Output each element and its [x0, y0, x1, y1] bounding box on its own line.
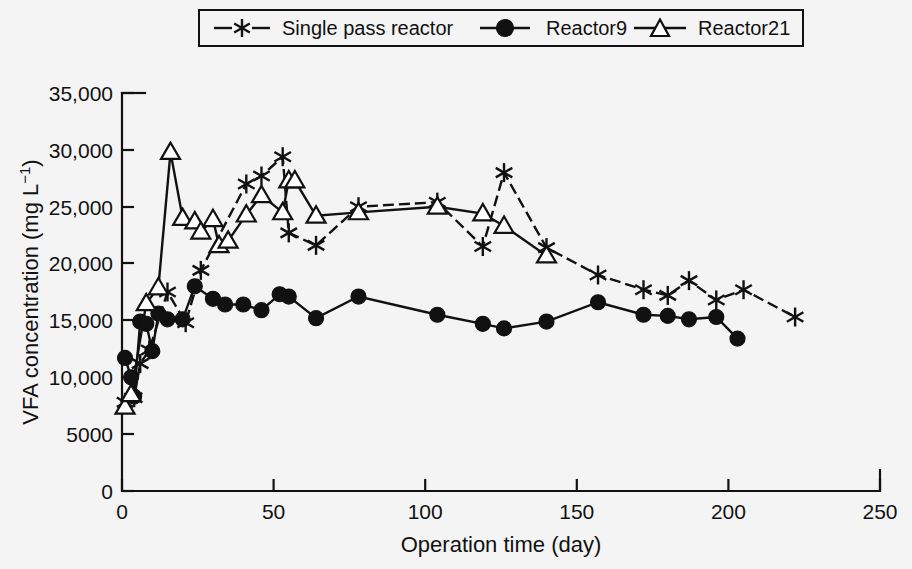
- chart-background: [0, 0, 912, 569]
- data-point-1-19: [475, 316, 490, 331]
- data-point-1-23: [636, 307, 651, 322]
- x-tick-label-250: 250: [862, 500, 897, 523]
- y-tick-label-25000: 25,000: [49, 196, 113, 219]
- x-tick-label-150: 150: [559, 500, 594, 523]
- data-point-1-7: [160, 312, 175, 327]
- y-tick-label-5000: 5000: [66, 423, 113, 446]
- data-point-1-0: [118, 350, 133, 365]
- vfa-concentration-chart: Single pass reactor Reactor9 Reactor21: [0, 0, 912, 569]
- data-point-1-24: [660, 308, 675, 323]
- legend-item-reactor9[interactable]: Reactor9: [480, 17, 627, 39]
- x-tick-label-0: 0: [116, 500, 128, 523]
- figure-container: Single pass reactor Reactor9 Reactor21: [0, 0, 912, 569]
- svg-text:VFA concentration (mg L−1): VFA concentration (mg L−1): [16, 159, 44, 424]
- y-axis-title-exponent: −1: [16, 167, 33, 184]
- y-axis-title-main: VFA concentration (mg L: [18, 184, 43, 425]
- y-tick-label-30000: 30,000: [49, 139, 113, 162]
- legend-label-single-pass-reactor: Single pass reactor: [282, 17, 454, 39]
- y-tick-label-15000: 15,000: [49, 309, 113, 332]
- data-point-1-21: [539, 314, 554, 329]
- data-point-1-15: [281, 289, 296, 304]
- x-axis-title: Operation time (day): [401, 532, 602, 557]
- filled-circle-icon: [497, 20, 514, 37]
- data-point-1-5: [145, 344, 160, 359]
- y-axis-title-close: ): [18, 159, 43, 166]
- y-tick-label-20000: 20,000: [49, 252, 113, 275]
- data-point-1-17: [351, 289, 366, 304]
- data-point-1-13: [254, 303, 269, 318]
- data-point-1-11: [218, 297, 233, 312]
- data-point-1-18: [430, 307, 445, 322]
- x-tick-label-50: 50: [262, 500, 285, 523]
- data-point-1-9: [187, 279, 202, 294]
- data-point-1-12: [236, 297, 251, 312]
- data-point-1-20: [497, 321, 512, 336]
- x-tick-label-200: 200: [711, 500, 746, 523]
- data-point-1-8: [175, 312, 190, 327]
- y-tick-label-35000: 35,000: [49, 82, 113, 105]
- data-point-1-22: [591, 295, 606, 310]
- data-point-1-16: [309, 311, 324, 326]
- y-tick-label-10000: 10,000: [49, 366, 113, 389]
- data-point-1-25: [681, 312, 696, 327]
- data-point-1-26: [709, 310, 724, 325]
- legend-label-reactor21: Reactor21: [698, 17, 790, 39]
- y-tick-label-0: 0: [101, 480, 113, 503]
- data-point-1-1: [124, 370, 139, 385]
- x-tick-label-100: 100: [408, 500, 443, 523]
- legend-label-reactor9: Reactor9: [546, 17, 627, 39]
- legend: Single pass reactor Reactor9 Reactor21: [199, 10, 803, 46]
- data-point-1-27: [730, 331, 745, 346]
- y-axis-title: VFA concentration (mg L−1): [16, 159, 44, 424]
